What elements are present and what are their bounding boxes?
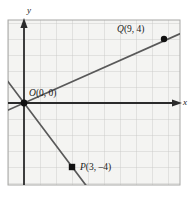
point-marker-P xyxy=(69,164,75,170)
point-marker-O xyxy=(21,100,28,107)
point-label-P: P(3, –4) xyxy=(80,163,111,173)
coordinate-plane-figure: y x O(0, 0) Q(9, 4) P(3, –4) xyxy=(0,0,194,198)
point-marker-Q xyxy=(161,36,167,42)
x-axis-label: x xyxy=(183,98,187,107)
y-axis-label: y xyxy=(27,6,31,15)
point-label-P-coords: (3, –4) xyxy=(86,162,111,172)
point-label-O: O(0, 0) xyxy=(29,89,56,99)
point-label-O-name: O xyxy=(29,88,36,98)
point-label-Q: Q(9, 4) xyxy=(117,25,144,35)
point-label-Q-coords: (9, 4) xyxy=(124,24,145,34)
point-label-Q-name: Q xyxy=(117,24,124,34)
point-label-O-coords: (0, 0) xyxy=(36,88,57,98)
